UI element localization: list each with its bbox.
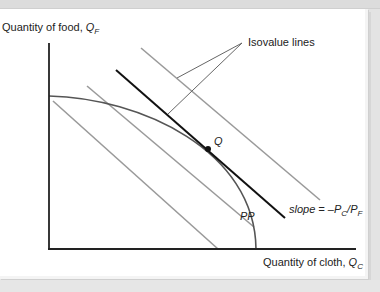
x-axis-label-text: Quantity of cloth, <box>263 256 349 268</box>
point-q-marker <box>205 146 211 152</box>
x-axis-var: Q <box>349 256 358 268</box>
x-axis-label: Quantity of cloth, QC <box>263 256 363 268</box>
isovalue-lines-label: Isovalue lines <box>248 36 315 48</box>
y-axis-sub: F <box>94 27 99 36</box>
slope-s1: C <box>341 209 347 218</box>
y-axis-label: Quantity of food, QF <box>2 21 99 33</box>
diagram-canvas <box>0 0 380 292</box>
point-q-label: Q <box>214 135 223 147</box>
y-axis-label-text: Quantity of food, <box>2 21 86 33</box>
slope-prefix: slope = – <box>289 203 334 215</box>
slope-label: slope = –PC/PF <box>289 203 362 215</box>
slope-s2: F <box>357 209 362 218</box>
tangent-isovalue-line <box>116 70 285 218</box>
pointer-line-1 <box>177 43 242 78</box>
isovalue-line-outer <box>141 48 320 200</box>
pp-curve-label: PP <box>240 210 255 222</box>
x-axis-sub: C <box>357 262 363 271</box>
